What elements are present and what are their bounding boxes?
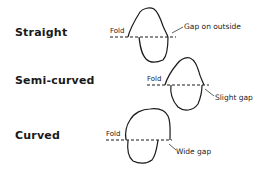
gap-label-straight: Gap on outside bbox=[184, 22, 241, 31]
fold-label-semi-curved: Fold bbox=[147, 75, 161, 83]
fold-label-curved: Fold bbox=[106, 130, 120, 138]
straight-fold-shape bbox=[110, 8, 183, 62]
gap-label-semi-curved: Slight gap bbox=[215, 93, 253, 102]
semi-curved-fold-shape bbox=[147, 58, 214, 110]
row-label-straight: Straight bbox=[15, 26, 67, 39]
fold-label-straight: Fold bbox=[110, 27, 124, 35]
gap-label-curved: Wide gap bbox=[176, 147, 211, 156]
row-label-curved: Curved bbox=[15, 129, 60, 142]
row-label-semi-curved: Semi-curved bbox=[15, 74, 95, 87]
